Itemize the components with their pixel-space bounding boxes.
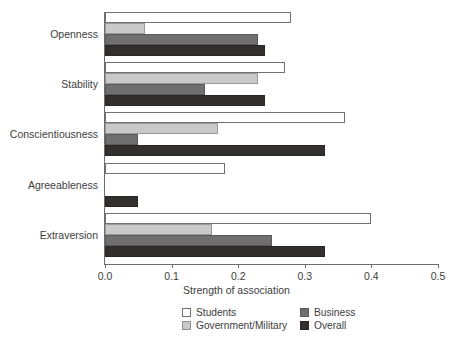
bar-openness-students bbox=[105, 12, 291, 23]
x-tick-mark-0.3 bbox=[305, 264, 306, 268]
x-tick-label-0.3: 0.3 bbox=[285, 270, 325, 282]
bar-stability-government-military bbox=[105, 73, 258, 84]
legend-item-overall: Overall bbox=[300, 320, 412, 331]
x-tick-label-0.2: 0.2 bbox=[218, 270, 258, 282]
legend-item-business: Business bbox=[300, 307, 412, 318]
y-axis-label-agreeableness: Agreeableness bbox=[0, 179, 98, 191]
chart-legend: StudentsBusinessGovernment/MilitaryOvera… bbox=[182, 306, 412, 332]
y-axis-label-conscientiousness: Conscientiousness bbox=[0, 128, 98, 140]
bar-agreeableness-students bbox=[105, 163, 225, 174]
bar-openness-government-military bbox=[105, 23, 145, 34]
bar-openness-business bbox=[105, 34, 258, 45]
bar-stability-students bbox=[105, 62, 285, 73]
legend-item-government-military: Government/Military bbox=[182, 320, 300, 331]
x-axis-title: Strength of association bbox=[0, 284, 473, 296]
x-tick-mark-0.1 bbox=[172, 264, 173, 268]
x-tick-mark-0.0 bbox=[105, 264, 106, 268]
x-tick-label-0.5: 0.5 bbox=[418, 270, 458, 282]
bar-conscientiousness-students bbox=[105, 112, 345, 123]
y-axis-label-openness: Openness bbox=[0, 28, 98, 40]
bar-agreeableness-overall bbox=[105, 196, 138, 207]
x-tick-mark-0.5 bbox=[438, 264, 439, 268]
bar-conscientiousness-government-military bbox=[105, 123, 218, 134]
y-axis-label-extraversion: Extraversion bbox=[0, 229, 98, 241]
legend-swatch-icon bbox=[300, 308, 309, 317]
bar-extraversion-business bbox=[105, 235, 272, 246]
legend-label: Government/Military bbox=[196, 320, 287, 331]
legend-swatch-icon bbox=[182, 308, 191, 317]
x-tick-label-0.1: 0.1 bbox=[152, 270, 192, 282]
bar-stability-business bbox=[105, 84, 205, 95]
x-tick-label-0.0: 0.0 bbox=[85, 270, 125, 282]
x-tick-label-0.4: 0.4 bbox=[351, 270, 391, 282]
legend-swatch-icon bbox=[182, 321, 191, 330]
legend-swatch-icon bbox=[300, 321, 309, 330]
legend-item-students: Students bbox=[182, 307, 300, 318]
legend-label: Students bbox=[196, 307, 236, 318]
bar-openness-overall bbox=[105, 45, 265, 56]
bar-extraversion-students bbox=[105, 213, 371, 224]
bar-extraversion-overall bbox=[105, 246, 325, 257]
legend-label: Overall bbox=[314, 320, 346, 331]
x-tick-mark-0.4 bbox=[371, 264, 372, 268]
bar-stability-overall bbox=[105, 95, 265, 106]
x-tick-mark-0.2 bbox=[238, 264, 239, 268]
legend-label: Business bbox=[314, 307, 355, 318]
y-axis-label-stability: Stability bbox=[0, 78, 98, 90]
bar-conscientiousness-business bbox=[105, 134, 138, 145]
bar-chart-figure: OpennessStabilityConscientiousnessAgreea… bbox=[0, 0, 473, 347]
bar-extraversion-government-military bbox=[105, 224, 212, 235]
bar-conscientiousness-overall bbox=[105, 145, 325, 156]
